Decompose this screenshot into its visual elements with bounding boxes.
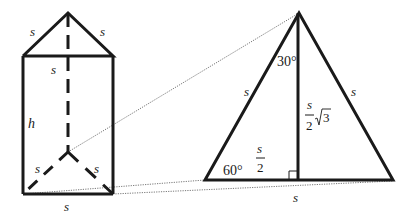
equilateral-triangle: [205, 13, 393, 180]
projection-line-base-right: [113, 181, 393, 194]
prism-label-top-front: s: [51, 62, 56, 77]
triangle-label-right-side: s: [351, 84, 356, 99]
triangle-apex-angle: 30°: [277, 54, 297, 69]
prism-label-height: h: [28, 116, 35, 131]
triangle-label-left-side: s: [244, 84, 249, 99]
triangle-label-base: s: [293, 190, 298, 205]
prism-label-base-front: s: [64, 199, 69, 214]
half-base-denominator: 2: [257, 160, 264, 175]
prism-hidden-base-right: [68, 152, 113, 194]
prism-label-base-left: s: [35, 161, 40, 176]
prism-label-base-right: s: [94, 161, 99, 176]
altitude-fraction: s 2 3: [305, 97, 331, 133]
altitude-denominator: 2: [306, 118, 313, 133]
altitude-root-value: 3: [323, 110, 330, 125]
half-base-fraction: s 2: [256, 141, 265, 175]
prism-label-top-right: s: [100, 24, 105, 39]
projection-lines: [23, 13, 393, 194]
half-base-numerator: s: [257, 141, 262, 156]
prism-label-top-left: s: [30, 24, 35, 39]
diagram-canvas: s s s h s s s 30° s s s 60° s 2 s 2 3: [0, 0, 416, 219]
triangle-base-angle: 60°: [223, 163, 243, 178]
prism-hidden-base-left: [23, 152, 68, 194]
altitude-numerator: s: [307, 97, 312, 112]
